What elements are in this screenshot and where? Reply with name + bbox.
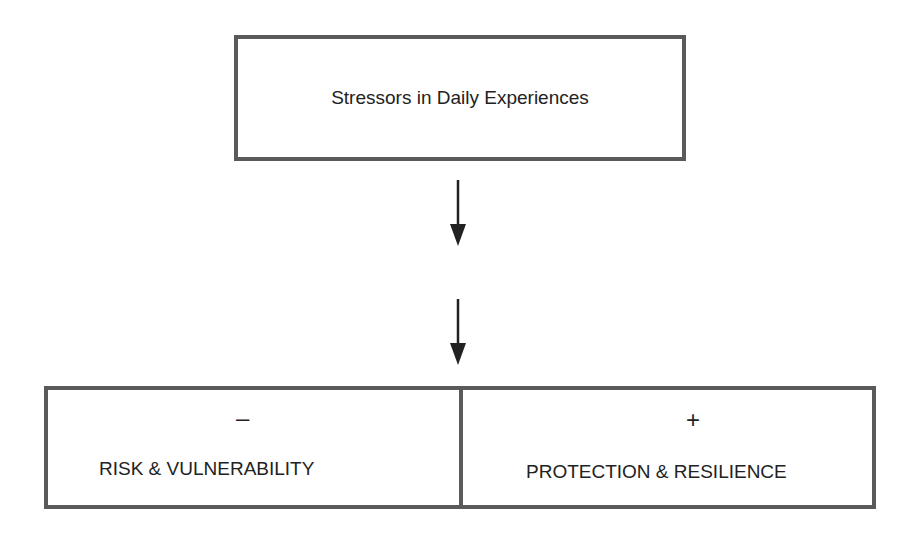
plus-icon: + (686, 408, 700, 432)
risk-vulnerability-label: RISK & VULNERABILITY (99, 458, 314, 480)
outcomes-divider (459, 390, 463, 505)
outcomes-box: – RISK & VULNERABILITY + PROTECTION & RE… (44, 386, 876, 509)
stressors-box: Stressors in Daily Experiences (234, 35, 686, 161)
protection-resilience-label: PROTECTION & RESILIENCE (526, 461, 787, 483)
down-arrow-icon (448, 180, 468, 248)
down-arrow-icon (448, 299, 468, 367)
stressors-label: Stressors in Daily Experiences (238, 87, 682, 109)
minus-icon: – (236, 406, 249, 430)
